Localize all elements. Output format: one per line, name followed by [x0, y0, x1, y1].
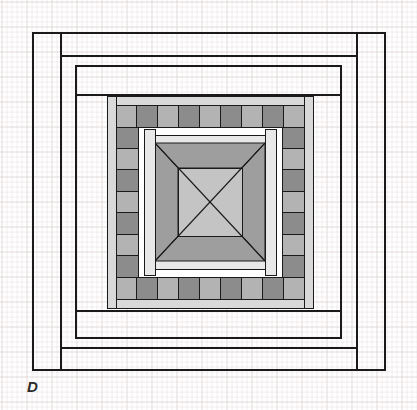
ring-block	[241, 277, 262, 299]
ring-block	[283, 105, 304, 127]
ring-block	[116, 256, 138, 277]
ring-block	[262, 277, 283, 299]
ring-block	[116, 213, 138, 234]
band-bottom	[107, 299, 313, 308]
ring-block	[158, 277, 179, 299]
ring-block	[137, 105, 158, 127]
ring-block	[116, 234, 138, 255]
ring-block	[179, 277, 200, 299]
ring-block	[179, 105, 200, 127]
figure-label: D	[27, 379, 38, 394]
ring-block	[200, 277, 221, 299]
ring-block	[116, 170, 138, 191]
ring-block	[283, 277, 304, 299]
ring-block	[137, 277, 158, 299]
ring-block	[158, 105, 179, 127]
ring-block	[282, 191, 304, 212]
band-top	[107, 96, 313, 105]
ring-block	[200, 105, 221, 127]
ring-block	[282, 127, 304, 148]
ring-block	[282, 256, 304, 277]
pilaster-left	[144, 129, 155, 275]
band-right	[304, 96, 313, 308]
band-left	[107, 96, 116, 308]
ring-block	[116, 191, 138, 212]
ring-block	[241, 105, 262, 127]
ring-block	[282, 213, 304, 234]
ring-block	[282, 170, 304, 191]
figure-page: D	[0, 0, 417, 410]
ring-block	[220, 277, 241, 299]
ring-block	[262, 105, 283, 127]
ring-block	[116, 127, 138, 148]
ring-block	[116, 105, 137, 127]
plan-drawing	[0, 0, 417, 410]
ring-block	[282, 234, 304, 255]
ring-block	[116, 277, 137, 299]
center-square-group	[155, 143, 265, 261]
ring-block	[282, 148, 304, 169]
ring-block	[116, 148, 138, 169]
pilaster-right	[265, 129, 276, 275]
ring-block	[220, 105, 241, 127]
